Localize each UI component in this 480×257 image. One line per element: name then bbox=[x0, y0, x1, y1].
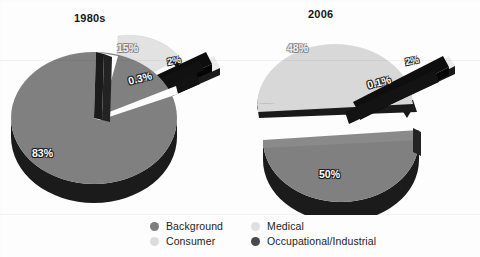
legend-item-consumer[interactable]: Consumer bbox=[150, 235, 223, 247]
chart-legend: Background Medical Consumer Occupational… bbox=[150, 220, 376, 247]
legend-label-background: Background bbox=[166, 220, 223, 232]
legend-label-medical: Medical bbox=[267, 220, 304, 232]
pie-chart-2006: 2006 48% 50% 2% 0.1% bbox=[235, 0, 480, 215]
pie-graphic-1980s bbox=[0, 0, 245, 215]
pie-chart-1980s: 1980s bbox=[0, 0, 245, 215]
legend-swatch-medical-icon bbox=[251, 222, 260, 231]
legend-item-background[interactable]: Background bbox=[150, 220, 223, 232]
legend-swatch-consumer-icon bbox=[150, 237, 159, 246]
scan-band-2 bbox=[0, 214, 480, 215]
legend-swatch-background-icon bbox=[150, 222, 159, 231]
value-label-consumer-2006: 48% bbox=[287, 42, 308, 54]
legend-swatch-occupational-icon bbox=[251, 237, 260, 246]
pie-graphic-2006 bbox=[235, 0, 480, 215]
scan-band bbox=[0, 60, 480, 61]
legend-item-occupational[interactable]: Occupational/Industrial bbox=[251, 235, 376, 247]
legend-label-consumer: Consumer bbox=[166, 235, 215, 247]
value-label-background-1980s: 83% bbox=[32, 147, 53, 159]
legend-label-occupational: Occupational/Industrial bbox=[267, 235, 376, 247]
value-label-consumer-1980s: 15% bbox=[117, 42, 138, 54]
legend-item-medical[interactable]: Medical bbox=[251, 220, 376, 232]
figure-canvas: 1980s bbox=[0, 0, 480, 257]
value-label-background-2006: 50% bbox=[319, 168, 340, 180]
slice-background-rim-2006 bbox=[413, 128, 421, 156]
